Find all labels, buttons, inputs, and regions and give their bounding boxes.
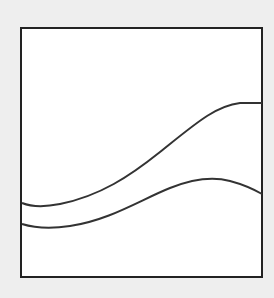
diagram-frame — [21, 28, 262, 277]
diagram-canvas — [0, 0, 274, 298]
